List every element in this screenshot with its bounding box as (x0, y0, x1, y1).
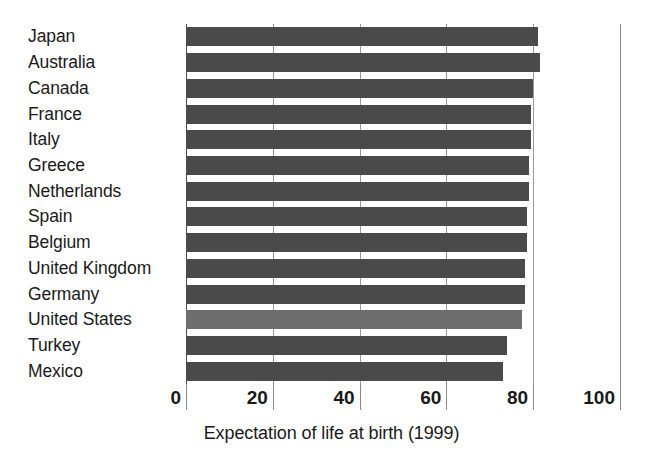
category-label-australia: Australia (0, 54, 168, 72)
category-label-united-kingdom: United Kingdom (0, 260, 168, 278)
bar-chart: JapanAustraliaCanadaFranceItalyGreeceNet… (0, 0, 663, 473)
bar-turkey (186, 336, 507, 355)
tick-mark-40 (360, 384, 361, 410)
category-label-greece: Greece (0, 157, 168, 175)
category-label-netherlands: Netherlands (0, 183, 168, 201)
tick-mark-0 (186, 384, 187, 410)
category-label-spain: Spain (0, 208, 168, 226)
category-label-united-states: United States (0, 311, 168, 329)
bar-japan (186, 27, 538, 46)
bar-spain (186, 207, 527, 226)
bar-belgium (186, 233, 527, 252)
category-label-belgium: Belgium (0, 234, 168, 252)
value-axis: 020406080100 (186, 384, 626, 414)
tick-mark-60 (446, 384, 447, 410)
tick-label-20: 20 (247, 388, 273, 407)
category-label-italy: Italy (0, 131, 168, 149)
tick-label-80: 80 (507, 388, 533, 407)
bar-greece (186, 156, 529, 175)
category-label-germany: Germany (0, 286, 168, 304)
bar-germany (186, 285, 525, 304)
tick-label-40: 40 (333, 388, 359, 407)
category-label-mexico: Mexico (0, 363, 168, 381)
category-label-canada: Canada (0, 80, 168, 98)
tick-label-0: 0 (170, 388, 186, 407)
bar-united-states (186, 310, 522, 329)
plot-area (186, 24, 620, 384)
bar-france (186, 105, 531, 124)
category-label-turkey: Turkey (0, 337, 168, 355)
bar-italy (186, 130, 531, 149)
category-axis: JapanAustraliaCanadaFranceItalyGreeceNet… (0, 24, 176, 384)
tick-mark-20 (273, 384, 274, 410)
bar-canada (186, 79, 533, 98)
category-label-japan: Japan (0, 28, 168, 46)
tick-mark-100 (620, 384, 621, 410)
x-axis-title: Expectation of life at birth (1999) (0, 424, 663, 442)
bar-united-kingdom (186, 259, 525, 278)
tick-label-60: 60 (420, 388, 446, 407)
bar-australia (186, 53, 540, 72)
bar-mexico (186, 362, 503, 381)
gridline-80 (533, 24, 534, 384)
bar-netherlands (186, 182, 529, 201)
gridline-100 (620, 24, 621, 384)
tick-label-100: 100 (583, 388, 620, 407)
category-label-france: France (0, 106, 168, 124)
tick-mark-80 (533, 384, 534, 410)
